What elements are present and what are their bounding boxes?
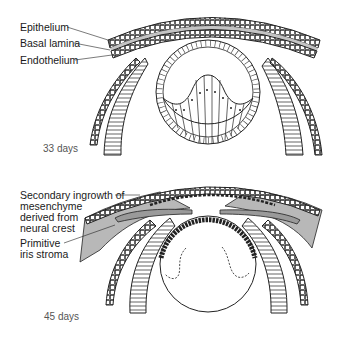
label-primitive-iris-2: iris stroma [20,249,68,260]
label-endothelium: Endothelium [20,55,78,66]
eye-development-diagram [0,0,340,344]
panel-33-days [90,18,322,156]
panel-45-days [80,187,322,313]
label-epithelium: Epithelium [20,22,69,33]
label-secondary-ingrowth-4: neural crest [20,223,75,234]
stage-label-33-days: 33 days [43,143,78,154]
label-basal-lamina: Basal lamina [20,38,80,49]
stage-label-45-days: 45 days [44,311,79,322]
